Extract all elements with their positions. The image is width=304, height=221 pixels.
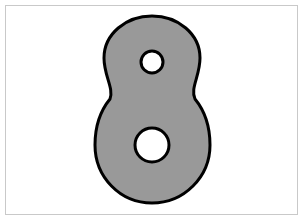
upper-counter-hole — [141, 51, 163, 73]
image-canvas: Line drawing of the numeral eight 8 — [0, 0, 304, 221]
numeral-eight-outline — [95, 16, 210, 203]
lower-counter-hole — [135, 128, 169, 162]
numeral-eight-artwork: Line drawing of the numeral eight — [0, 0, 304, 221]
